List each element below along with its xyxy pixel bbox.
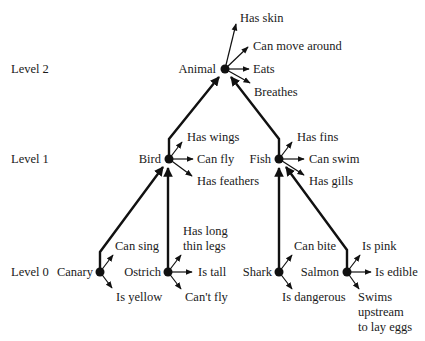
prop-arrow-has-long-thin-legs [168, 255, 181, 272]
prop-arrow-has-fins [279, 142, 292, 159]
prop-cant-fly: Can't fly [185, 290, 229, 304]
shark-label: Shark [243, 265, 273, 279]
prop-can-move-around: Can move around [253, 39, 343, 53]
prop-eats: Eats [253, 62, 275, 76]
prop-arrow-breathes [225, 69, 250, 83]
semantic-network-diagram: Level 2 Level 1 Level 0 Animal Has skin … [0, 0, 425, 341]
prop-arrow-is-dangerous [279, 272, 292, 289]
node-animal: Animal Has skin Can move around Eats Bre… [179, 11, 343, 99]
edge-canary-bird [100, 167, 163, 272]
prop-has-feathers: Has feathers [197, 174, 259, 188]
prop-has-wings: Has wings [187, 130, 240, 144]
prop-thin-legs: thin legs [183, 239, 226, 253]
animal-label: Animal [179, 62, 217, 76]
prop-arrow-can-move-around [225, 47, 248, 69]
prop-can-sing: Can sing [115, 239, 160, 253]
prop-can-bite: Can bite [294, 239, 336, 253]
prop-has-gills: Has gills [309, 174, 353, 188]
prop-can-fly: Can fly [197, 152, 235, 166]
prop-has-long: Has long [183, 224, 229, 238]
prop-is-yellow: Is yellow [116, 290, 162, 304]
prop-swims: Swims [358, 290, 392, 304]
prop-arrow-has-feathers [169, 159, 192, 176]
level-1-label: Level 1 [11, 152, 49, 166]
prop-arrow-has-skin [225, 24, 236, 69]
prop-arrow-swims-upstream [347, 272, 359, 289]
node-fish: Fish Has fins Can swim Has gills [249, 130, 359, 188]
bird-label: Bird [139, 152, 162, 166]
prop-is-dangerous: Is dangerous [282, 290, 346, 304]
prop-has-skin: Has skin [240, 11, 284, 25]
ostrich-label: Ostrich [124, 265, 162, 279]
level-2-label: Level 2 [11, 62, 49, 76]
node-bird: Bird Has wings Can fly Has feathers [139, 130, 259, 188]
prop-arrow-cant-fly [168, 272, 181, 289]
prop-can-swim: Can swim [309, 152, 360, 166]
prop-is-tall: Is tall [198, 265, 227, 279]
salmon-label: Salmon [301, 265, 340, 279]
prop-arrow-is-yellow [100, 272, 112, 288]
prop-arrow-can-sing [100, 255, 113, 272]
prop-is-pink: Is pink [362, 239, 397, 253]
prop-upstream: upstream [358, 305, 404, 319]
prop-is-edible: Is edible [375, 265, 418, 279]
prop-arrow-is-pink [347, 255, 360, 272]
level-0-label: Level 0 [11, 265, 49, 279]
prop-arrow-has-wings [169, 142, 182, 159]
prop-arrow-can-bite [279, 255, 292, 272]
node-salmon: Salmon Is pink Is edible Swims upstream … [301, 239, 418, 334]
fish-label: Fish [249, 152, 271, 166]
canary-label: Canary [57, 265, 94, 279]
edge-bird-animal [169, 77, 219, 159]
prop-has-fins: Has fins [297, 130, 338, 144]
prop-breathes: Breathes [254, 85, 298, 99]
prop-to-lay-eggs: to lay eggs [358, 320, 412, 334]
